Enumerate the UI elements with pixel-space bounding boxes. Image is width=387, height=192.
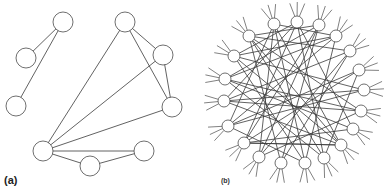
graph-node — [115, 12, 135, 32]
graph-node — [6, 96, 26, 116]
graph-node — [347, 123, 359, 135]
graph-edge — [43, 55, 163, 151]
graph-node — [330, 30, 342, 42]
node-stub — [282, 169, 284, 183]
graph-node — [238, 137, 250, 149]
node-stub — [208, 68, 220, 76]
graph-node — [318, 152, 330, 164]
graph-node — [153, 45, 173, 65]
node-stub — [343, 151, 348, 164]
node-stub — [290, 3, 295, 16]
node-stub — [369, 81, 382, 87]
node-stub — [268, 5, 272, 18]
node-stub — [323, 10, 332, 21]
graph-node — [16, 48, 36, 68]
graph-node — [53, 12, 73, 32]
graph-node — [313, 19, 325, 31]
graph-edge — [244, 25, 319, 143]
graph-node — [222, 120, 234, 132]
graph-node — [291, 16, 303, 28]
node-stub — [243, 17, 247, 30]
node-stub — [367, 108, 381, 110]
node-stub — [356, 45, 369, 49]
graph-node — [228, 50, 240, 62]
node-stub — [208, 126, 222, 127]
node-stub — [214, 53, 228, 55]
graph-node — [134, 141, 154, 161]
graph-node — [344, 45, 356, 57]
node-stub — [204, 102, 218, 103]
graph-node — [355, 105, 367, 117]
graph-node — [33, 141, 53, 161]
node-stub — [365, 63, 378, 68]
graph-node — [162, 97, 182, 117]
graph-node — [243, 30, 255, 42]
node-stub — [318, 5, 319, 19]
node-stub — [270, 168, 278, 180]
graph-node — [80, 156, 100, 176]
network-diagram — [0, 0, 387, 192]
panel-a-label: (a) — [4, 174, 17, 186]
graph-edge — [225, 25, 319, 79]
node-stub — [225, 145, 238, 150]
node-stub — [370, 89, 384, 90]
graph-node — [218, 95, 230, 107]
node-stub — [321, 6, 325, 19]
node-stub — [359, 130, 373, 132]
graph-node — [219, 73, 231, 85]
panel-b-label: (b) — [221, 177, 230, 184]
node-stub — [205, 95, 218, 99]
node-stub — [299, 4, 304, 17]
node-stub — [205, 75, 219, 78]
node-stub — [300, 169, 304, 183]
node-stub — [274, 4, 275, 18]
node-stub — [367, 113, 381, 117]
node-stub — [366, 115, 377, 123]
node-stub — [306, 169, 308, 183]
graph-node — [275, 157, 287, 169]
node-stub — [363, 56, 373, 66]
graph-edge — [274, 24, 336, 36]
graph-node — [268, 18, 280, 30]
graph-node — [299, 157, 311, 169]
graph-node — [353, 64, 365, 76]
graph-node — [335, 139, 347, 151]
node-stub — [337, 16, 340, 30]
graph-node — [358, 84, 370, 96]
graph-edge — [228, 36, 336, 126]
node-stub — [256, 163, 258, 177]
graph-edge — [43, 107, 172, 151]
node-stub — [206, 104, 218, 110]
node-stub — [261, 9, 270, 20]
graph-edge — [43, 22, 125, 151]
node-stub — [308, 168, 315, 180]
panel-b-graph — [204, 2, 384, 183]
node-stub — [205, 80, 219, 82]
node-stub — [370, 92, 383, 96]
graph-node — [253, 151, 265, 163]
panel-a-graph — [6, 12, 182, 176]
node-stub — [277, 169, 280, 183]
